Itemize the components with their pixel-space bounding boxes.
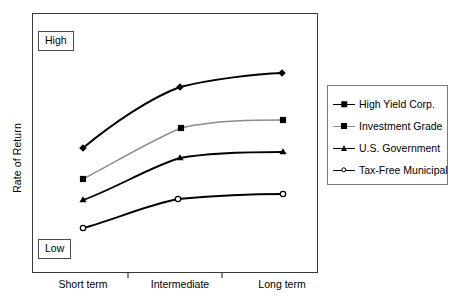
chart-legend: High Yield Corp. Investment Grade U.S. G… xyxy=(327,85,448,185)
x-axis-label-intermediate: Intermediate xyxy=(151,278,209,290)
legend-key-tax-free-municipal xyxy=(333,164,355,176)
legend-label-us-government: U.S. Government xyxy=(359,143,440,154)
legend-item-tax-free-municipal[interactable]: Tax-Free Municipal xyxy=(328,159,447,181)
legend-item-high-yield-corp[interactable]: High Yield Corp. xyxy=(328,93,447,115)
plot-area-frame xyxy=(32,13,318,273)
legend-key-investment-grade xyxy=(333,120,355,132)
x-axis-labels: Short term Intermediate Long term xyxy=(0,278,456,294)
high-range-label: High xyxy=(38,31,74,51)
x-axis-label-short-term: Short term xyxy=(58,278,107,290)
legend-label-tax-free-municipal: Tax-Free Municipal xyxy=(359,165,448,176)
filled-square-icon xyxy=(341,123,347,129)
open-circle-icon xyxy=(341,167,346,172)
legend-item-us-government[interactable]: U.S. Government xyxy=(328,137,447,159)
filled-diamond-icon xyxy=(341,101,347,107)
legend-label-high-yield-corp: High Yield Corp. xyxy=(359,99,435,110)
y-axis-title: Rate of Return xyxy=(11,103,23,213)
legend-item-investment-grade[interactable]: Investment Grade xyxy=(328,115,447,137)
filled-triangle-icon xyxy=(341,145,347,151)
low-range-label: Low xyxy=(38,239,71,259)
x-axis-label-long-term: Long term xyxy=(258,278,305,290)
rate-of-return-line-chart: Rate of Return High Low Short term Inter… xyxy=(0,0,456,308)
legend-key-high-yield-corp xyxy=(333,98,355,110)
legend-key-us-government xyxy=(333,142,355,154)
legend-label-investment-grade: Investment Grade xyxy=(359,121,442,132)
